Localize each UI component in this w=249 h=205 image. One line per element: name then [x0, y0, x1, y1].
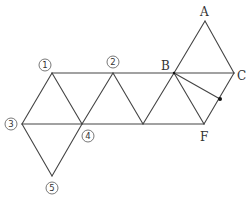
- label-circled-3: 3: [5, 118, 17, 130]
- edge-B-dot: [174, 73, 220, 99]
- svg-text:5: 5: [49, 183, 54, 193]
- net-diagram: A B C F 1 2 3 4 5: [0, 0, 249, 205]
- label-C: C: [237, 69, 246, 83]
- edge-B-F: [174, 73, 204, 124]
- edge-1-4: [52, 73, 82, 124]
- svg-text:1: 1: [42, 60, 47, 70]
- label-A: A: [199, 5, 209, 19]
- label-circled-2: 2: [107, 56, 119, 68]
- edge-4-2: [82, 73, 113, 124]
- label-F: F: [200, 130, 208, 144]
- point-B: [173, 72, 175, 74]
- label-circled-4: 4: [82, 130, 94, 142]
- svg-text:2: 2: [110, 57, 115, 67]
- label-circled-1: 1: [39, 59, 51, 71]
- label-circled-5: 5: [46, 182, 58, 194]
- label-B: B: [161, 59, 170, 73]
- edge-M-B: [143, 73, 174, 124]
- edge-3-1: [22, 73, 52, 124]
- edge-5-4: [52, 124, 82, 176]
- svg-text:4: 4: [85, 131, 90, 141]
- edge-B-A: [174, 21, 205, 73]
- point-dot: [218, 97, 222, 101]
- edge-3-5: [22, 124, 52, 176]
- edge-A-C: [205, 21, 234, 73]
- edge-2-M: [113, 73, 143, 124]
- svg-text:3: 3: [8, 119, 13, 129]
